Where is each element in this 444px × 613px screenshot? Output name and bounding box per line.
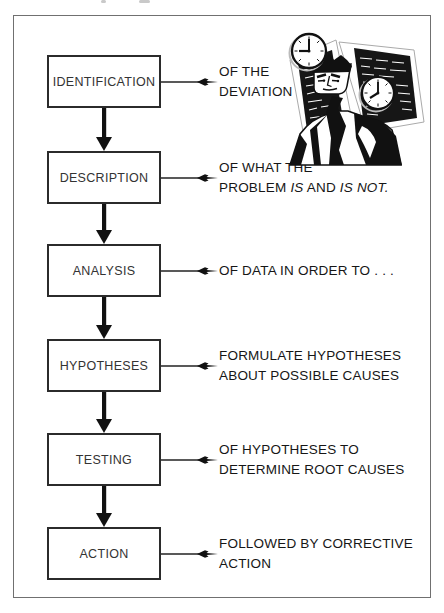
annotation-line: ACTION: [219, 554, 413, 574]
worried-man-with-clocks-illustration: [284, 26, 438, 170]
process-box-testing: TESTING: [47, 433, 161, 486]
annotation-line: FORMULATE HYPOTHESES: [219, 346, 401, 366]
connector-pointer-icon: [161, 265, 220, 277]
annotation-line: DEVIATION: [219, 82, 293, 102]
annotation-line: ABOUT POSSIBLE CAUSES: [219, 366, 401, 386]
annotation-analysis: OF DATA IN ORDER TO . . .: [219, 261, 394, 281]
annotation-testing: OF HYPOTHESES TODETERMINE ROOT CAUSES: [219, 440, 404, 480]
annotation-line: DETERMINE ROOT CAUSES: [219, 460, 404, 480]
annotation-identification: OF THEDEVIATION: [219, 62, 293, 102]
annotation-line: FOLLOWED BY CORRECTIVE: [219, 534, 413, 554]
clock-icon-left: [290, 34, 327, 71]
down-arrow-icon: [94, 486, 114, 527]
down-arrow-icon: [94, 108, 114, 151]
connector-pointer-icon: [161, 172, 220, 184]
process-box-label: TESTING: [76, 453, 132, 467]
scan-artifact: [139, 0, 150, 3]
annotation-line: OF DATA IN ORDER TO . . .: [219, 261, 394, 281]
down-arrow-icon: [94, 297, 114, 339]
process-box-label: ANALYSIS: [73, 264, 136, 278]
process-box-label: DESCRIPTION: [60, 171, 149, 185]
process-box-action: ACTION: [47, 527, 161, 580]
scanned-page: IDENTIFICATION DESCRIPTION ANALYSIS HYPO…: [0, 0, 444, 613]
scan-artifact: [101, 0, 106, 3]
annotation-action: FOLLOWED BY CORRECTIVEACTION: [219, 534, 413, 574]
process-box-label: ACTION: [79, 547, 128, 561]
connector-pointer-icon: [161, 76, 220, 88]
down-arrow-icon: [94, 204, 114, 244]
clock-icon-right: [360, 77, 395, 112]
process-box-description: DESCRIPTION: [47, 151, 161, 204]
process-box-label: IDENTIFICATION: [53, 75, 156, 89]
process-box-hypotheses: HYPOTHESES: [47, 339, 161, 392]
connector-pointer-icon: [161, 454, 220, 466]
connector-pointer-icon: [161, 548, 220, 560]
annotation-line: OF THE: [219, 62, 293, 82]
annotation-hypotheses: FORMULATE HYPOTHESESABOUT POSSIBLE CAUSE…: [219, 346, 401, 386]
annotation-line: OF HYPOTHESES TO: [219, 440, 404, 460]
process-box-identification: IDENTIFICATION: [47, 55, 161, 108]
down-arrow-icon: [94, 392, 114, 433]
connector-pointer-icon: [161, 360, 220, 372]
annotation-line: PROBLEM IS AND IS NOT.: [219, 178, 389, 198]
process-box-analysis: ANALYSIS: [47, 244, 161, 297]
process-box-label: HYPOTHESES: [60, 359, 148, 373]
